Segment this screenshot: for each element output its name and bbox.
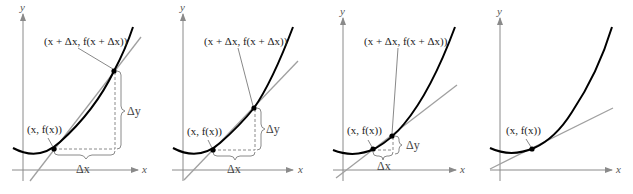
secant-line <box>30 37 141 181</box>
x-axis-label: x <box>141 163 147 175</box>
y-axis-label: y <box>179 1 185 13</box>
point1-pointer <box>208 140 212 148</box>
x-axis-label: x <box>459 163 465 175</box>
point1-label: (x, f(x)) <box>347 124 382 137</box>
point-pointer <box>526 139 531 147</box>
point1-dot <box>370 146 375 151</box>
x-axis-label: x <box>615 163 621 175</box>
point-label: (x, f(x)) <box>506 124 541 137</box>
delta-x-label: Δx <box>227 162 241 176</box>
point1-label: (x, f(x)) <box>27 123 62 136</box>
panel-2: y x Δx Δy (x + Δx, f(x + Δx)) (x, f(x)) <box>172 1 303 181</box>
x-axis-label: x <box>297 163 303 175</box>
delta-y-brace <box>117 71 125 149</box>
tangent-line <box>490 108 613 169</box>
point2-label: (x + Δx, f(x + Δx)) <box>204 35 288 48</box>
point1-pointer <box>368 140 372 147</box>
point1-pointer <box>48 138 53 147</box>
panel-4: y x (x, f(x)) <box>490 5 621 181</box>
point2-pointer <box>392 48 398 134</box>
secant-line <box>184 61 298 180</box>
y-axis-label: y <box>496 5 502 17</box>
point2-pointer <box>238 48 253 106</box>
delta-y-label: Δy <box>127 104 141 118</box>
point2-pointer <box>78 48 113 69</box>
point1-dot <box>51 146 56 151</box>
delta-y-brace <box>257 108 265 150</box>
panel-3: y x Δx Δy (x + Δx, f(x + Δx)) (x, f(x)) <box>333 5 465 181</box>
point1-dot <box>210 147 215 152</box>
point2-label: (x + Δx, f(x + Δx)) <box>364 35 448 48</box>
delta-x-label: Δx <box>377 159 391 173</box>
y-axis-label: y <box>19 1 25 13</box>
delta-y-brace <box>395 136 402 154</box>
delta-x-brace <box>213 152 255 160</box>
tangent-point-dot <box>529 146 534 151</box>
secant-to-tangent-figure: y x Δx Δy (x + Δx, f(x + Δx)) (x, f(x)) … <box>0 0 633 194</box>
point2-label: (x + Δx, f(x + Δx)) <box>44 35 128 48</box>
delta-y-label: Δy <box>266 122 280 136</box>
panel-1: y x Δx Δy (x + Δx, f(x + Δx)) (x, f(x)) <box>12 1 147 181</box>
delta-x-brace <box>54 151 115 159</box>
y-axis-label: y <box>339 5 345 17</box>
delta-x-label: Δx <box>76 162 90 176</box>
point2-dot <box>111 68 116 73</box>
point2-dot <box>251 105 256 110</box>
delta-y-label: Δy <box>406 138 420 152</box>
point2-dot <box>389 133 394 138</box>
point1-label: (x, f(x)) <box>187 125 222 138</box>
